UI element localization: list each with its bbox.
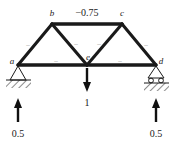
truss-diagram-figure: – – – – – – [0,0,177,141]
node-label-b: b [50,8,55,18]
node-label-c: c [120,8,124,18]
sign-mark-ae: – [53,57,58,65]
ground-hatch-right [144,83,169,91]
roller-wheel-1 [149,78,154,83]
top-chord-force-label: −0.75 [75,7,98,18]
member-ce [87,24,122,65]
node-label-d: d [159,56,164,66]
roller-triangle [148,66,164,78]
applied-load-arrow-e [83,68,91,92]
applied-load-label: 1 [85,97,90,108]
sign-mark-ed: – [117,57,122,65]
reaction-d-label: 0.5 [150,128,163,139]
sign-mark-be: – [73,40,78,48]
support-right-roller [144,66,169,91]
roller-wheel-2 [159,78,164,83]
reaction-a-label: 0.5 [12,128,25,139]
reaction-d-head [152,98,160,108]
sign-mark-cd: – [143,41,148,49]
sign-mark-ab: – [25,41,30,49]
reaction-a-head [14,98,22,108]
ground-hatch-left [6,80,31,88]
member-cd [122,24,156,65]
pin-triangle [10,66,26,80]
node-label-a: a [10,56,15,66]
reaction-arrow-a [14,98,22,122]
node-label-e: e [86,52,90,62]
member-ab [18,24,52,65]
support-left-pin [6,66,31,88]
reaction-arrow-d [152,98,160,122]
sign-mark-ce: – [96,40,101,48]
load-arrow-head [83,82,91,92]
truss-diagram-canvas: – – – – – – [0,0,177,141]
